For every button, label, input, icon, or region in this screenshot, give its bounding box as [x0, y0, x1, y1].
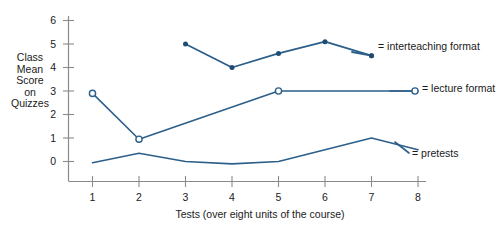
- y-axis-label-line-1: Class: [2, 52, 58, 64]
- x-tick-label-7: 7: [362, 191, 382, 203]
- y-tick-label-6: 6: [40, 14, 56, 26]
- legend-item-lecture: = lecture format: [422, 82, 495, 94]
- y-axis-label: Class Mean Score on Quizzes: [2, 52, 58, 110]
- legend-markers: [352, 52, 418, 153]
- legend-item-interteaching: = interteaching format: [378, 40, 480, 52]
- legend-lecture-marker: [412, 88, 418, 94]
- y-tick-label-0: 0: [40, 155, 56, 167]
- x-tick-label-3: 3: [176, 191, 196, 203]
- x-tick-label-1: 1: [83, 191, 103, 203]
- data-point-filled: [230, 65, 235, 70]
- x-tick-label-4: 4: [222, 191, 242, 203]
- series-lecture-format: [89, 88, 418, 142]
- x-tick-label-8: 8: [408, 191, 428, 203]
- x-tick-label-6: 6: [315, 191, 335, 203]
- x-tick-label-5: 5: [269, 191, 289, 203]
- data-point-filled: [183, 42, 188, 47]
- data-point-filled: [276, 51, 281, 56]
- line-chart: 6 5 4 3 2 1 0 1 2 3 4 5 6 7 8 Class Mean…: [0, 0, 498, 234]
- y-tick-label-5: 5: [40, 38, 56, 50]
- y-axis-label-line-5: Quizzes: [2, 98, 58, 110]
- data-point-open: [89, 90, 95, 96]
- x-tick-label-2: 2: [129, 191, 149, 203]
- y-tick-label-1: 1: [40, 132, 56, 144]
- legend-item-pretests: = pretests: [412, 147, 458, 159]
- data-point-filled: [323, 39, 328, 44]
- series-interteaching-format: [183, 39, 374, 70]
- data-point-open: [275, 88, 281, 94]
- legend-interteaching-marker: [369, 53, 374, 58]
- x-axis-label: Tests (over eight units of the course): [100, 208, 420, 220]
- data-point-open: [136, 136, 142, 142]
